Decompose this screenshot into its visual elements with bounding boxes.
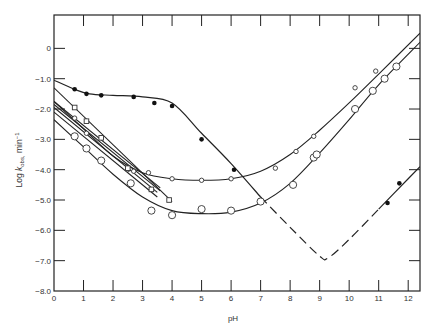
data-point-small-circle xyxy=(170,177,174,181)
x-tick-label: 10 xyxy=(345,294,354,303)
data-point-large-circle xyxy=(71,133,78,140)
fit-curve xyxy=(54,101,160,187)
data-point-filled-circle xyxy=(84,92,89,97)
data-point-filled-circle xyxy=(199,137,204,142)
data-point-large-circle xyxy=(168,212,175,219)
data-point-large-circle xyxy=(313,151,320,158)
data-point-small-circle xyxy=(84,131,88,135)
data-point-filled-circle xyxy=(131,95,136,100)
y-tick-label: −7.0 xyxy=(35,257,51,266)
x-tick-label: 3 xyxy=(140,294,145,303)
data-point-large-circle xyxy=(148,207,155,214)
y-tick-label: −1.0 xyxy=(35,75,51,84)
data-point-filled-circle xyxy=(385,201,390,206)
data-point-large-circle xyxy=(381,75,388,82)
data-point-small-circle xyxy=(131,169,135,173)
data-point-small-circle xyxy=(146,171,150,175)
data-point-filled-circle xyxy=(397,181,402,186)
plot-markers xyxy=(71,63,402,219)
fit-curve xyxy=(54,42,420,213)
data-point-small-circle xyxy=(273,166,277,170)
data-point-square xyxy=(125,166,130,171)
data-point-large-circle xyxy=(369,87,376,94)
y-tick-label: −3.0 xyxy=(35,135,51,144)
fit-curve-dashed xyxy=(261,197,379,260)
data-point-small-circle xyxy=(312,134,316,138)
fit-curve xyxy=(54,108,157,193)
x-tick-label: 8 xyxy=(288,294,293,303)
x-tick-label: 9 xyxy=(317,294,322,303)
plot-axes: 01234567891011120−1.0−2.0−3.0−4.0−5.0−6.… xyxy=(35,15,420,303)
y-axis-label: Log kobs, min−1 xyxy=(14,132,25,188)
x-tick-label: 2 xyxy=(111,294,116,303)
x-tick-label: 4 xyxy=(170,294,175,303)
data-point-filled-circle xyxy=(232,167,237,172)
x-tick-label: 7 xyxy=(258,294,263,303)
data-point-large-circle xyxy=(198,206,205,213)
data-point-square xyxy=(149,187,154,192)
y-tick-label: 0 xyxy=(47,44,52,53)
x-tick-label: 1 xyxy=(81,294,86,303)
x-tick-label: 0 xyxy=(52,294,57,303)
fit-curve xyxy=(54,112,157,197)
y-tick-label: −5.0 xyxy=(35,196,51,205)
y-tick-label: −4.0 xyxy=(35,166,51,175)
data-point-large-circle xyxy=(227,207,234,214)
data-point-filled-circle xyxy=(152,101,157,106)
data-point-large-circle xyxy=(83,145,90,152)
data-point-small-circle xyxy=(199,178,203,182)
y-tick-label: −8.0 xyxy=(35,287,51,296)
y-tick-label: −2.0 xyxy=(35,105,51,114)
x-tick-label: 11 xyxy=(375,294,384,303)
data-point-large-circle xyxy=(289,181,296,188)
data-point-small-circle xyxy=(353,86,357,90)
plot-curves xyxy=(54,33,420,260)
fit-curve xyxy=(54,104,160,190)
data-point-square xyxy=(84,119,89,124)
data-point-square xyxy=(167,198,172,203)
data-point-filled-circle xyxy=(72,87,77,92)
data-point-large-circle xyxy=(98,157,105,164)
x-tick-label: 5 xyxy=(199,294,204,303)
data-point-square xyxy=(72,105,77,110)
data-point-large-circle xyxy=(393,63,400,70)
y-tick-label: −6.0 xyxy=(35,226,51,235)
x-axis-label: pH xyxy=(228,314,238,323)
x-tick-label: 6 xyxy=(229,294,234,303)
data-point-square xyxy=(99,136,104,141)
data-point-large-circle xyxy=(351,105,358,112)
fit-curve-solid xyxy=(379,167,420,209)
fit-curve xyxy=(54,33,420,180)
data-point-small-circle xyxy=(72,116,76,120)
x-tick-label: 12 xyxy=(404,294,413,303)
data-point-filled-circle xyxy=(99,93,104,98)
data-point-small-circle xyxy=(294,149,298,153)
chart: 01234567891011120−1.0−2.0−3.0−4.0−5.0−6.… xyxy=(0,0,435,331)
data-point-large-circle xyxy=(127,180,134,187)
data-point-filled-circle xyxy=(170,104,175,109)
data-point-large-circle xyxy=(257,198,264,205)
data-point-small-circle xyxy=(374,69,378,73)
data-point-small-circle xyxy=(229,177,233,181)
